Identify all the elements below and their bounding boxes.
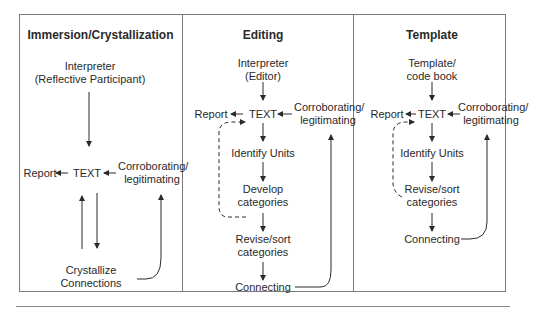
node-interpreter: Interpreter xyxy=(19,60,161,73)
node-corroborating: Corroborating/ xyxy=(118,160,186,173)
node-revise-sort: Revise/sort xyxy=(392,183,472,196)
node-text: TEXT xyxy=(416,108,448,121)
node-revise-categories: categories xyxy=(223,246,303,259)
node-crystallize: Crystallize xyxy=(56,264,126,277)
node-develop: Develop xyxy=(223,183,303,196)
node-corroborating: Corroborating/ xyxy=(458,101,524,114)
node-legitimating: legitimating xyxy=(294,114,362,127)
node-identify-units: Identify Units xyxy=(392,147,472,160)
node-revise-sort: Revise/sort xyxy=(223,233,303,246)
node-interpreter-role: (Editor) xyxy=(228,70,298,83)
node-connecting: Connecting xyxy=(223,281,303,294)
panel-title-template: Template xyxy=(391,28,473,42)
node-revise-categories: categories xyxy=(392,196,472,209)
panel-title-editing: Editing xyxy=(222,28,304,42)
node-report: Report xyxy=(369,108,405,121)
node-text: TEXT xyxy=(247,108,279,121)
node-report: Report xyxy=(193,108,229,121)
node-code-book: code book xyxy=(397,70,467,83)
node-identify-units: Identify Units xyxy=(223,147,303,160)
node-interpreter: Interpreter xyxy=(228,57,298,70)
node-corroborating: Corroborating/ xyxy=(294,101,362,114)
node-connections: Connections xyxy=(56,277,126,290)
node-interpreter-role: (Reflective Participant) xyxy=(19,73,161,86)
node-text: TEXT xyxy=(71,167,103,180)
node-develop-categories: categories xyxy=(223,196,303,209)
node-template: Template/ xyxy=(397,57,467,70)
node-legitimating: legitimating xyxy=(118,173,186,186)
node-connecting: Connecting xyxy=(392,233,472,246)
node-legitimating: legitimating xyxy=(458,114,524,127)
node-report: Report xyxy=(22,167,58,180)
panel-title-immersion: Immersion/Crystallization xyxy=(19,28,182,42)
